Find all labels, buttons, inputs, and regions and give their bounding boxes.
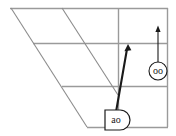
node-oo-label: oo (153, 65, 163, 76)
grid-group (10, 8, 168, 128)
diagram-svg: oo ao (0, 0, 176, 136)
node-oo[interactable]: oo (149, 62, 167, 80)
arrow-ao-shaft (116, 49, 127, 112)
node-ao[interactable]: ao (105, 110, 130, 130)
arrow-oo-head (155, 26, 160, 33)
grid-line-diagonal-inner (62, 8, 118, 95)
node-ao-label: ao (111, 114, 120, 125)
arrow-ao-head (124, 44, 131, 51)
diagram-canvas: oo ao (0, 0, 176, 136)
grid-line-diagonal-left (11, 8, 87, 127)
